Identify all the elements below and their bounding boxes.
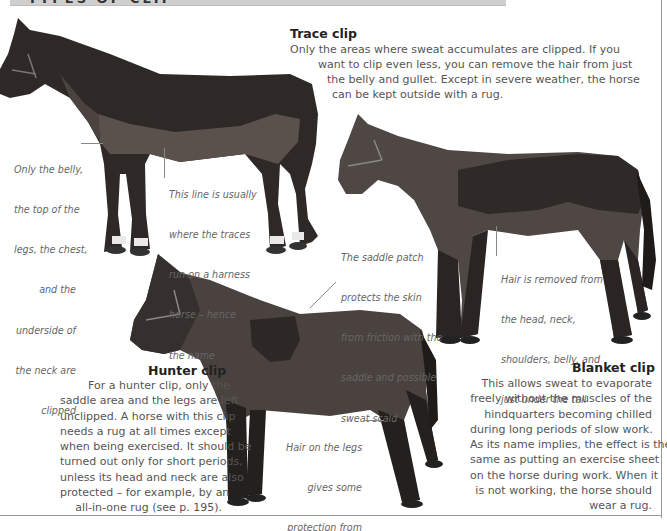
trace-clip-line: want to clip even less, you can remove t…: [318, 57, 632, 72]
leader-line: [496, 226, 497, 256]
trace-clip-line: the belly and gullet. Except in severe w…: [327, 72, 640, 87]
trace-clip-line: can be kept outside with a rug.: [332, 87, 503, 102]
book-page: TYPES OF CLIP: [0, 0, 667, 531]
hunter-clip-body: For a hunter clip, only the saddle area …: [60, 378, 232, 516]
leader-line: [308, 280, 338, 310]
blanket-clip-body: This allows sweat to evaporate freely wi…: [470, 376, 652, 514]
leader-line: [81, 143, 103, 144]
annotation-hair-legs: Hair on the legs gives some protection f…: [286, 414, 362, 531]
trace-clip-heading: Trace clip: [290, 26, 357, 41]
blanket-clip-heading: Blanket clip: [572, 360, 655, 375]
hunter-clip-heading: Hunter clip: [148, 363, 226, 378]
leader-line: [364, 420, 384, 421]
header-band: TYPES OF CLIP: [10, 0, 506, 6]
annotation-traces-line: This line is usually where the traces ru…: [169, 161, 257, 389]
page-title: TYPES OF CLIP: [28, 0, 174, 6]
leader-line: [164, 148, 165, 178]
trace-clip-line: Only the areas where sweat accumulates a…: [290, 42, 620, 57]
